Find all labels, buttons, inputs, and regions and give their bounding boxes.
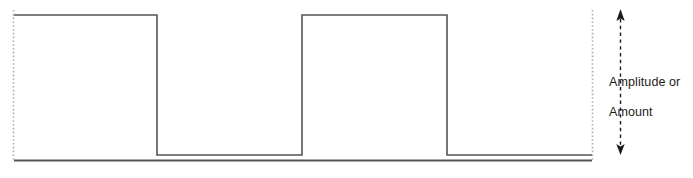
amplitude-label: Amplitude or Amount — [609, 60, 693, 135]
amplitude-label-line-1: Amplitude or — [609, 75, 693, 90]
amplitude-label-line-2: Amount — [609, 105, 693, 120]
square-wave-trace — [14, 15, 592, 155]
waveform-canvas — [0, 0, 693, 178]
square-wave-amplitude-figure: Amplitude or Amount — [0, 0, 693, 178]
amplitude-arrow-head-down — [616, 144, 624, 155]
